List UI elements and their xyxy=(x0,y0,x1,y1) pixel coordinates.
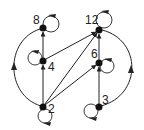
node-12 xyxy=(96,27,103,34)
loop-6 xyxy=(100,59,114,73)
edge-4-12 xyxy=(46,32,96,59)
loop-4 xyxy=(28,51,42,65)
label-6: 6 xyxy=(91,47,98,61)
node-2 xyxy=(40,104,47,111)
loop-12 xyxy=(96,12,112,28)
label-4: 4 xyxy=(48,60,55,74)
arrow-up-left-arc xyxy=(11,62,17,70)
label-2: 2 xyxy=(48,102,55,116)
label-12: 12 xyxy=(85,13,99,27)
node-4 xyxy=(40,58,47,65)
node-8 xyxy=(40,25,47,32)
divisibility-graph: 8 12 4 6 2 3 xyxy=(0,0,144,130)
arrow-up-right-arc xyxy=(128,65,134,73)
label-3: 3 xyxy=(102,93,109,107)
loop-6-arrow xyxy=(104,58,112,62)
edge-2-8-arc xyxy=(14,29,41,106)
label-8: 8 xyxy=(33,13,40,27)
